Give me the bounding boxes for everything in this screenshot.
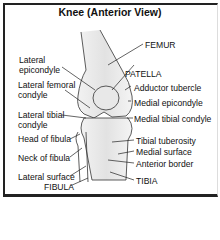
label-tibial-tuberosity: Tibial tuberosity [136, 136, 196, 146]
label-medial-surface: Medial surface [136, 147, 192, 157]
label-lateral-epicondyle: Lateral epicondyle [19, 55, 60, 75]
label-tibia: TIBIA [136, 176, 158, 186]
label-medial-tibial-condyle: Medial tibial condyle [134, 114, 211, 124]
label-neck-of-fibula: Neck of fibula [18, 153, 70, 163]
label-adductor-tubercle: Adductor tubercle [134, 83, 201, 93]
label-head-of-fibula: Head of fibula [18, 134, 71, 144]
label-patella: PATELLA [125, 69, 161, 79]
label-medial-epicondyle: Medial epicondyle [134, 98, 203, 108]
label-lateral-femoral-condyle: Lateral femoral condyle [18, 80, 75, 100]
label-lateral-tibial-condyle: Lateral tibial condyle [18, 110, 64, 130]
label-femur: FEMUR [145, 40, 176, 50]
label-anterior-border: Anterior border [136, 159, 193, 169]
label-lateral-surface: Lateral surface [18, 172, 75, 182]
label-fibula: FIBULA [44, 182, 74, 192]
